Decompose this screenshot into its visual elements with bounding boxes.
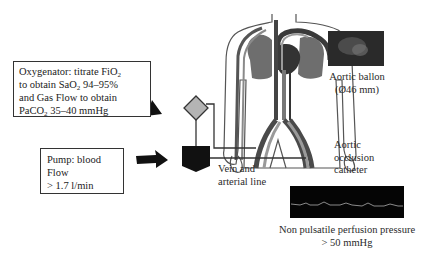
right-lung [298,37,324,79]
diamond-icon [184,96,208,120]
thick-arrow-icon [136,150,168,168]
pump-text: > 1.7 l/min [47,179,117,192]
vein-arterial-line-label: Vein and arterial line [218,163,266,188]
oxygenator-text: and Gas Flow to obtain [19,91,145,104]
oxygenator-box: Oxygenator: titrate FiO2 to obtain SaO2 … [13,61,151,117]
oxygenator-text: PaCO [19,105,44,116]
perfusion-monitor [290,186,404,218]
pump-text: Flow [47,166,117,179]
perfusion-pressure-label: Non pulsatile perfusion pressure > 50 mm… [262,224,426,249]
oxygenator-text: to obtain SaO [19,79,77,90]
aortic-occlusion-label: Aortic occlusion catheter [334,139,374,177]
oxygenator-text: Oxygenator: titrate FiO [19,66,118,77]
anatomy-diagram [0,0,426,256]
pump-text: Pump: blood [47,153,117,166]
pentagon-pump-icon [182,146,210,172]
oxygenator-line [206,104,256,148]
pump-box: Pump: blood Flow > 1.7 l/min [40,148,124,194]
aortic-balloon-label: Aortic ballon (Ø46 mm) [326,71,388,96]
